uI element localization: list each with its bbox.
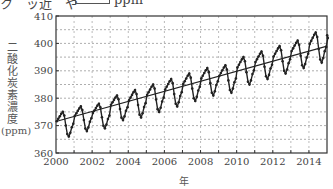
data-point-marker [280, 49, 283, 52]
data-point-marker [241, 58, 244, 61]
data-point-marker [186, 74, 189, 77]
y-tick-label: 380 [34, 93, 53, 104]
data-point-marker [194, 100, 197, 103]
data-point-marker [117, 98, 120, 101]
data-point-marker [177, 101, 180, 104]
data-point-marker [191, 87, 194, 90]
data-point-marker [283, 70, 286, 73]
data-point-marker [57, 118, 60, 121]
data-point-marker [179, 95, 182, 98]
x-tick-label: 2012 [260, 156, 285, 167]
data-point-marker [208, 71, 211, 74]
data-point-marker [205, 69, 208, 72]
data-point-marker [242, 56, 245, 59]
x-tick-label: 2014 [296, 156, 321, 167]
x-tick-label: 2000 [43, 156, 68, 167]
data-point-marker [299, 54, 302, 57]
data-point-marker [262, 54, 265, 57]
data-point-marker [69, 132, 72, 135]
data-point-marker [188, 72, 191, 75]
data-point-marker [201, 74, 204, 77]
data-point-marker [161, 100, 164, 103]
data-point-marker [248, 83, 251, 86]
data-point-marker [239, 61, 242, 64]
data-point-marker [197, 89, 200, 92]
data-point-marker [180, 91, 183, 94]
data-point-marker [238, 63, 241, 66]
data-point-marker [147, 91, 150, 94]
data-point-marker [245, 71, 248, 74]
data-point-marker [227, 79, 230, 82]
data-point-marker [278, 45, 281, 48]
data-point-marker [253, 69, 256, 72]
data-point-marker [295, 42, 298, 45]
data-point-marker [301, 64, 304, 67]
data-point-marker [173, 93, 176, 96]
data-point-marker [153, 87, 156, 90]
data-point-marker [64, 124, 67, 127]
data-point-marker [99, 106, 102, 109]
data-point-marker [220, 72, 223, 75]
data-point-marker [290, 50, 293, 53]
data-point-marker [101, 116, 104, 119]
data-point-marker [266, 78, 269, 81]
data-point-marker [268, 74, 271, 77]
data-point-marker [308, 43, 311, 46]
data-point-marker [134, 89, 137, 92]
data-point-marker [170, 78, 173, 81]
data-point-marker [221, 69, 224, 72]
data-point-marker [102, 125, 105, 128]
data-point-marker [126, 106, 129, 109]
data-point-marker [293, 44, 296, 47]
data-point-marker [137, 104, 140, 107]
data-point-marker [212, 94, 215, 97]
data-point-marker [111, 101, 114, 104]
data-point-marker [119, 108, 122, 111]
co2-line-chart: 3603703803904004102000200220042006200820… [0, 0, 333, 189]
data-point-marker [244, 60, 247, 63]
data-point-marker [141, 112, 144, 115]
data-point-marker [149, 88, 152, 91]
x-tick-label: 2002 [79, 156, 104, 167]
data-point-marker [200, 77, 203, 80]
data-point-marker [203, 72, 206, 75]
data-point-marker [269, 67, 272, 70]
data-point-marker [272, 55, 275, 58]
data-point-marker [304, 63, 307, 66]
data-point-marker [171, 82, 174, 85]
data-point-marker [159, 106, 162, 109]
data-point-marker [229, 89, 232, 92]
data-point-marker [211, 91, 214, 94]
data-point-marker [167, 83, 170, 86]
data-point-marker [281, 60, 284, 63]
data-point-marker [155, 98, 158, 101]
data-point-marker [263, 65, 266, 68]
data-point-marker [230, 91, 233, 94]
data-point-marker [265, 75, 268, 78]
x-tick-label: 2004 [116, 156, 141, 167]
data-point-marker [305, 56, 308, 59]
data-point-marker [298, 43, 301, 46]
data-point-marker [158, 111, 161, 114]
data-point-marker [192, 97, 195, 100]
data-point-marker [140, 116, 143, 119]
data-point-marker [182, 83, 185, 86]
data-point-marker [198, 85, 201, 88]
data-point-marker [165, 85, 168, 88]
data-point-marker [143, 106, 146, 109]
data-point-marker [223, 66, 226, 69]
data-point-marker [108, 114, 111, 117]
data-point-marker [323, 50, 326, 53]
data-point-marker [176, 105, 179, 108]
data-point-marker [310, 40, 313, 43]
data-point-marker [326, 37, 329, 40]
data-point-marker [233, 81, 236, 84]
data-point-marker [95, 107, 98, 110]
data-point-marker [129, 96, 132, 99]
data-point-marker [125, 109, 128, 112]
data-point-marker [132, 91, 135, 94]
data-point-marker [209, 82, 212, 85]
data-point-marker [319, 58, 322, 61]
data-point-marker [322, 57, 325, 60]
data-point-marker [314, 31, 317, 34]
